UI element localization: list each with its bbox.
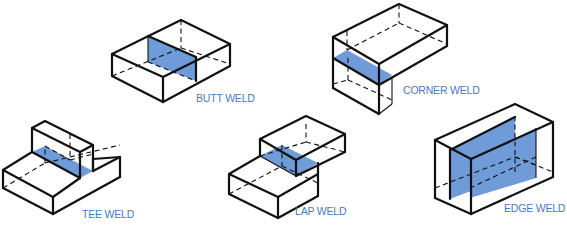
edge-weld-figure (435, 104, 553, 214)
tee-weld-figure (3, 121, 120, 214)
butt-weld-figure (112, 20, 230, 102)
label-tee-weld: TEE WELD (82, 208, 134, 220)
lap-weld-figure (229, 116, 345, 218)
label-corner-weld: CORNER WELD (403, 84, 480, 96)
label-lap-weld: LAP WELD (295, 205, 346, 217)
label-butt-weld: BUTT WELD (196, 92, 255, 104)
corner-weld-figure (333, 4, 447, 114)
label-edge-weld: EDGE WELD (504, 202, 565, 214)
weld-joints-diagram (0, 0, 567, 232)
